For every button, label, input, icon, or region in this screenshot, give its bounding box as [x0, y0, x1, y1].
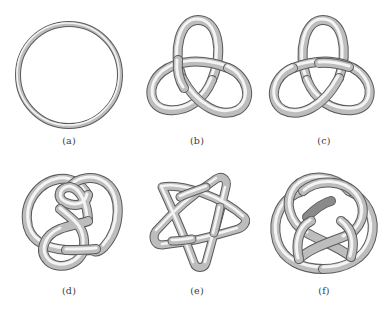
trefoil-knot-mirror-icon — [259, 0, 389, 130]
panel-b: (b) — [132, 0, 262, 157]
caption-f: (f) — [259, 285, 389, 296]
panel-c: (c) — [259, 0, 389, 157]
caption-c: (c) — [259, 135, 389, 146]
caption-d: (d) — [4, 285, 134, 296]
caption-a: (a) — [4, 135, 134, 146]
unknot-circle-icon — [4, 0, 134, 130]
caption-e: (e) — [132, 285, 262, 296]
panel-e: (e) — [132, 157, 262, 314]
panel-d: (d) — [4, 157, 134, 314]
panel-a: (a) — [4, 0, 134, 157]
cinquefoil-star-knot-icon — [132, 157, 262, 287]
trefoil-knot-icon — [132, 0, 262, 130]
caption-b: (b) — [132, 135, 262, 146]
figure-eight-knot-icon — [4, 157, 134, 287]
complex-knot-icon — [259, 157, 389, 287]
panel-f: (f) — [259, 157, 389, 314]
